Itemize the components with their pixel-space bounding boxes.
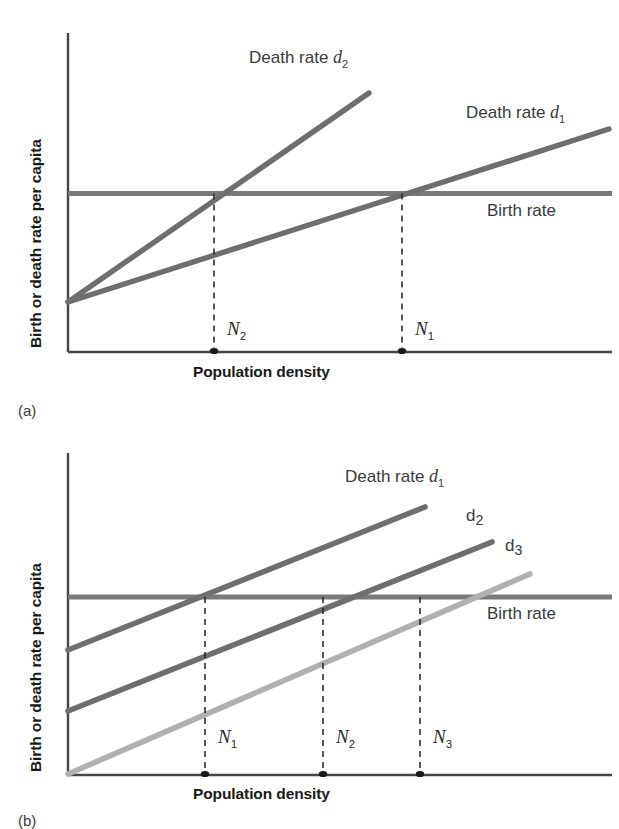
annotation-death-rate-d1-subscript-a: 1 xyxy=(559,113,565,125)
death-rate-d3-line-b xyxy=(68,574,530,774)
equilibrium-point-n3-b xyxy=(416,771,424,777)
equilibrium-point-n2-b xyxy=(319,771,327,777)
equilibrium-label-n1-text-b: N xyxy=(218,726,231,747)
equilibrium-label-n1-sub-b: 1 xyxy=(231,738,237,750)
annotation-death-rate-d2-text-a: Death rate xyxy=(249,48,328,67)
annotation-death-rate-d1-b: Death rate d1 xyxy=(345,466,444,489)
x-axis-label-b: Population density xyxy=(193,785,330,803)
x-axis-label-a: Population density xyxy=(193,363,330,381)
equilibrium-point-n1-a xyxy=(398,348,406,354)
panel-caption-b: (b) xyxy=(18,812,36,829)
equilibrium-label-n3-text-b: N xyxy=(433,726,446,747)
equilibrium-label-n2-sub-b: 2 xyxy=(349,738,355,750)
annotation-death-rate-d2-b: d2 xyxy=(466,506,483,528)
annotation-birth-rate-a: Birth rate xyxy=(487,201,556,221)
annotation-death-rate-d2-symbol-a: d2 xyxy=(328,47,348,67)
annotation-death-rate-d3-subscript-b: 3 xyxy=(514,542,522,558)
equilibrium-label-n2-a: N2 xyxy=(227,318,246,342)
equilibrium-label-n2-sub-a: 2 xyxy=(240,330,246,342)
annotation-death-rate-d1-symbol-a: d1 xyxy=(545,102,565,122)
equilibrium-label-n3-b: N3 xyxy=(433,726,452,750)
death-rate-d1-line-b xyxy=(68,507,425,650)
equilibrium-label-n2-text-b: N xyxy=(336,726,349,747)
equilibrium-label-n1-a: N1 xyxy=(415,318,434,342)
annotation-death-rate-d1-a: Death rate d1 xyxy=(466,102,565,125)
annotation-death-rate-d2-a: Death rate d2 xyxy=(249,47,348,70)
annotation-death-rate-d1-subscript-b: 1 xyxy=(438,477,444,489)
equilibrium-label-n3-sub-b: 3 xyxy=(446,738,452,750)
annotation-death-rate-d3-b: d3 xyxy=(505,536,522,558)
equilibrium-label-n2-b: N2 xyxy=(336,726,355,750)
death-rate-d2-line-a xyxy=(68,93,369,302)
panel-a: Birth or death rate per capita Populatio… xyxy=(0,0,619,414)
equilibrium-label-n1-b: N1 xyxy=(218,726,237,750)
annotation-death-rate-d1-text-a: Death rate xyxy=(466,103,545,122)
y-axis-label-b: Birth or death rate per capita xyxy=(27,563,45,772)
equilibrium-label-n2-text-a: N xyxy=(227,318,240,339)
equilibrium-point-n1-b xyxy=(201,771,209,777)
annotation-death-rate-d2-subscript-a: 2 xyxy=(342,58,348,70)
equilibrium-label-n1-text-a: N xyxy=(415,318,428,339)
panel-b: Birth or death rate per capita Populatio… xyxy=(0,414,619,828)
equilibrium-point-n2-a xyxy=(210,348,218,354)
annotation-death-rate-d2-subscript-b: 2 xyxy=(475,512,483,528)
annotation-birth-rate-b: Birth rate xyxy=(487,604,556,624)
y-axis-label-a: Birth or death rate per capita xyxy=(27,139,45,348)
equilibrium-label-n1-sub-a: 1 xyxy=(428,330,434,342)
annotation-death-rate-d1-text-b: Death rate xyxy=(345,467,424,486)
annotation-death-rate-d1-symbol-b: d1 xyxy=(424,466,444,486)
